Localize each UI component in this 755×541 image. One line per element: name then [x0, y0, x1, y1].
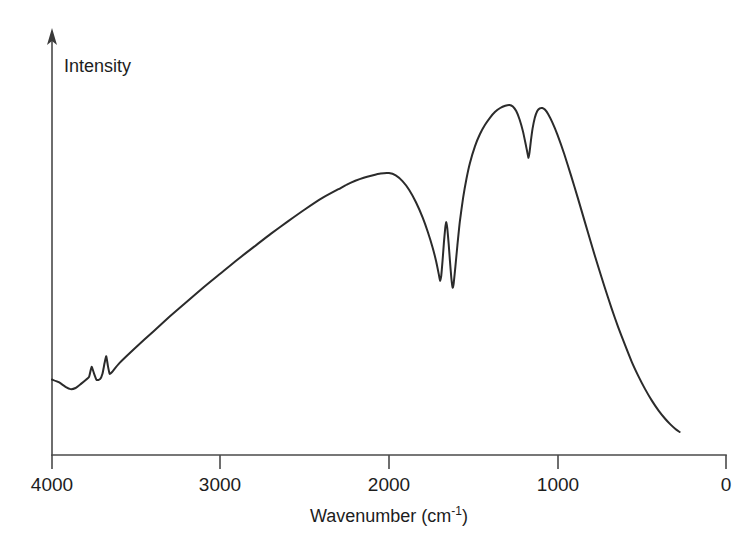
x-axis-title-tail: ) — [462, 506, 468, 526]
x-tick-label-3000: 3000 — [199, 474, 241, 495]
x-tick-label-1000: 1000 — [537, 474, 579, 495]
intensity-axis: Intensity — [47, 28, 131, 455]
x-axis-title-superscript: -1 — [451, 504, 462, 518]
wavenumber-axis: 4000 3000 2000 1000 0 Wavenumber (cm-1) — [31, 455, 731, 526]
spectrum-curve — [52, 105, 680, 432]
x-axis-title-main: Wavenumber (cm — [310, 506, 451, 526]
x-tick-label-4000: 4000 — [31, 474, 73, 495]
x-axis-title: Wavenumber (cm-1) — [310, 504, 468, 526]
x-tick-label-0: 0 — [721, 474, 732, 495]
ir-spectrum-figure: Intensity 4000 3000 2000 1000 0 Wavenumb… — [0, 0, 755, 541]
y-axis-label: Intensity — [64, 56, 131, 76]
spectrum-plot: Intensity 4000 3000 2000 1000 0 Wavenumb… — [0, 0, 755, 541]
x-tick-label-2000: 2000 — [368, 474, 410, 495]
